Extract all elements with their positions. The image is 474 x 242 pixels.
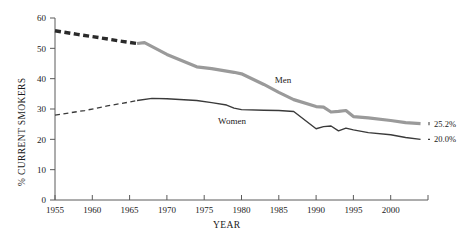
x-tick-label: 2000: [382, 205, 401, 215]
y-axis-ticks: 0102030405060: [37, 13, 55, 205]
x-axis-ticks: 1955196019651970197519801985199019952000: [46, 195, 428, 215]
women-series-label: Women: [218, 116, 246, 126]
chart-canvas: 0102030405060 19551960196519701975198019…: [0, 0, 474, 242]
men-series-dashed-segment: [55, 31, 137, 44]
y-tick-label: 0: [42, 195, 47, 205]
x-tick-label: 1960: [83, 205, 102, 215]
y-tick-label: 40: [37, 74, 47, 84]
women-series-dashed-segment: [55, 101, 137, 116]
men-end-value-label: 25.2%: [434, 119, 456, 129]
women-end-value-label: 20.0%: [434, 134, 456, 144]
y-tick-label: 50: [37, 44, 47, 54]
x-tick-label: 1995: [344, 205, 363, 215]
y-tick-label: 60: [37, 13, 47, 23]
men-series-label: Men: [275, 75, 292, 85]
y-axis-title: % CURRENT SMOKERS: [17, 77, 27, 186]
x-tick-label: 1955: [46, 205, 65, 215]
y-tick-label: 30: [37, 104, 47, 114]
x-tick-label: 1990: [307, 205, 326, 215]
y-tick-label: 10: [37, 165, 47, 175]
smoking-prevalence-chart: 0102030405060 19551960196519701975198019…: [0, 0, 474, 242]
x-tick-label: 1965: [121, 205, 140, 215]
x-tick-label: 1975: [195, 205, 214, 215]
y-tick-label: 20: [37, 135, 47, 145]
x-tick-label: 1985: [270, 205, 289, 215]
x-tick-label: 1970: [158, 205, 177, 215]
x-axis-title: YEAR: [213, 220, 240, 230]
x-tick-label: 1980: [233, 205, 252, 215]
